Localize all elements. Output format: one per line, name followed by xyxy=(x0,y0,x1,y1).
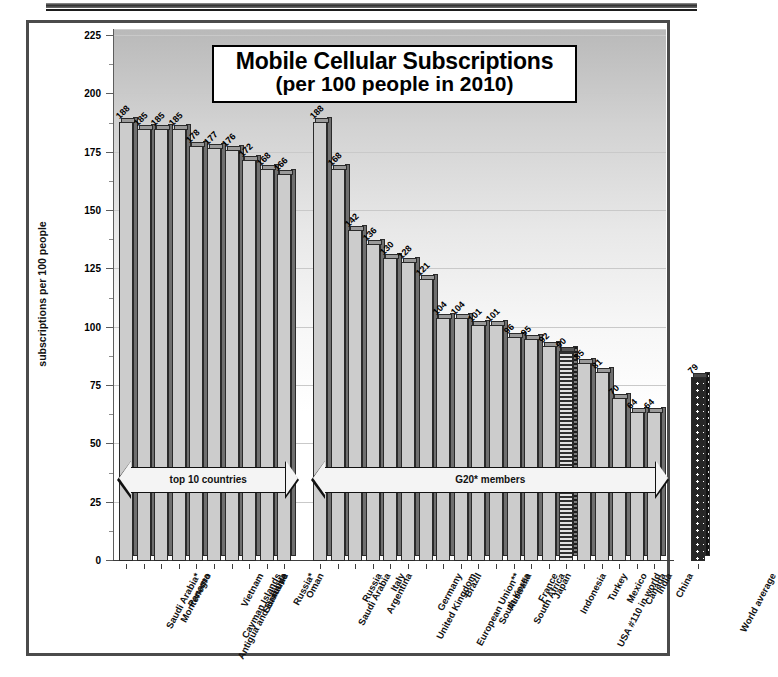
y-axis-tick-label: 50 xyxy=(90,438,101,449)
x-axis-tick xyxy=(602,564,603,569)
bar xyxy=(691,377,705,561)
x-axis-tick xyxy=(531,564,532,569)
y-axis-tick-label: 125 xyxy=(84,263,101,274)
x-axis-tick xyxy=(496,564,497,569)
y-axis-tick xyxy=(106,385,113,386)
x-axis-tick xyxy=(355,564,356,569)
group-range-label: G20* members xyxy=(311,467,669,493)
x-axis-tick xyxy=(408,564,409,569)
y-axis-tick xyxy=(106,210,113,211)
y-axis-tick-label: 200 xyxy=(84,88,101,99)
x-axis-tick xyxy=(514,564,515,569)
chart-frame: 0255075100125150175200225 subscriptions … xyxy=(26,20,670,656)
y-axis-tick-label: 175 xyxy=(84,146,101,157)
x-axis-tick xyxy=(214,564,215,569)
scan-artifact-bar xyxy=(46,3,697,8)
x-axis-tick xyxy=(126,564,127,569)
group-range-label: top 10 countries xyxy=(117,467,299,493)
y-axis-tick-label: 25 xyxy=(90,496,101,507)
x-axis-category-label: China xyxy=(673,571,695,599)
group-range-arrow: top 10 countries xyxy=(117,467,299,493)
y-axis-tick xyxy=(106,327,113,328)
y-axis-tick-label: 225 xyxy=(84,30,101,41)
x-axis-tick xyxy=(461,564,462,569)
y-axis-tick-label: 100 xyxy=(84,321,101,332)
x-axis-category-labels: Saudi Arabia*MontenegroPanamaAntigua and… xyxy=(113,564,674,676)
x-axis-tick xyxy=(584,564,585,569)
x-axis-tick xyxy=(144,564,145,569)
y-axis-tick xyxy=(106,502,113,503)
y-axis-tick-label: 150 xyxy=(84,205,101,216)
x-axis-tick xyxy=(549,564,550,569)
y-axis-tick-label: 0 xyxy=(95,555,101,566)
x-axis-tick xyxy=(284,564,285,569)
group-range-arrow: G20* members xyxy=(311,467,669,493)
bar-side xyxy=(705,372,710,556)
x-axis-tick xyxy=(320,564,321,569)
x-axis-category-label: Indonesia xyxy=(577,571,608,615)
x-axis-tick xyxy=(426,564,427,569)
x-axis-tick xyxy=(196,564,197,569)
y-axis-title: subscriptions per 100 people xyxy=(36,129,48,459)
group-annotations: top 10 countriesG20* members xyxy=(113,23,674,566)
y-axis-tick xyxy=(106,35,113,36)
x-axis-tick xyxy=(249,564,250,569)
x-axis-tick xyxy=(478,564,479,569)
x-axis-tick xyxy=(373,564,374,569)
x-axis-tick xyxy=(566,564,567,569)
bar-front xyxy=(691,377,705,561)
x-axis-tick xyxy=(161,564,162,569)
y-axis-tick xyxy=(106,560,113,561)
x-axis-category-label: World average xyxy=(738,571,778,634)
x-axis-tick xyxy=(338,564,339,569)
x-axis-tick xyxy=(267,564,268,569)
y-axis-tick xyxy=(106,268,113,269)
y-axis-tick-label: 75 xyxy=(90,380,101,391)
x-axis-tick xyxy=(390,564,391,569)
x-axis-tick xyxy=(619,564,620,569)
y-axis-tick xyxy=(106,152,113,153)
x-axis-tick xyxy=(232,564,233,569)
x-axis-tick xyxy=(637,564,638,569)
x-axis-tick xyxy=(698,564,699,569)
x-axis-tick xyxy=(179,564,180,569)
x-axis-tick xyxy=(443,564,444,569)
scan-artifact-line xyxy=(46,9,697,11)
x-axis-tick xyxy=(654,564,655,569)
y-axis-tick xyxy=(106,93,113,94)
y-axis-tick xyxy=(106,443,113,444)
